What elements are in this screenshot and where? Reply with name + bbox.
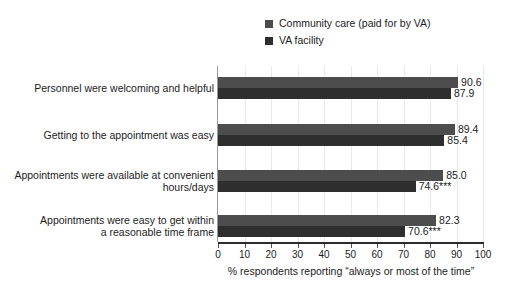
x-tick [298,244,299,248]
bar-value-label: 87.9 [451,88,474,99]
bar [218,88,451,99]
category-label-line: Appointments were available at convenien… [4,169,214,182]
x-tick-label: 70 [398,249,409,260]
legend-label-community-care: Community care (paid for by VA) [279,18,431,29]
legend-swatch-va-facility [265,37,273,45]
category-label-line: a reasonable time frame [4,226,214,239]
x-tick [218,244,219,248]
x-tick-label: 0 [215,249,221,260]
x-tick-label: 90 [451,249,462,260]
category-label: Appointments were easy to get withina re… [4,214,218,239]
category-label: Getting to the appointment was easy [4,129,218,142]
x-tick [351,244,352,248]
bar [218,181,416,192]
x-tick-label: 10 [239,249,250,260]
bar [218,226,405,237]
bar [218,215,436,226]
bar [218,77,458,88]
legend-item-va-facility: VA facility [265,33,490,48]
y-axis-line [217,66,218,242]
x-tick [483,244,484,248]
bar [218,124,455,135]
bar-value-label: 70.6*** [405,226,441,237]
x-tick [271,244,272,248]
x-tick [404,244,405,248]
category-label-line: Getting to the appointment was easy [4,129,214,142]
category-label-line: Personnel were welcoming and helpful [4,82,214,95]
x-tick [430,244,431,248]
category-labels: Personnel were welcoming and helpfulGett… [0,0,218,291]
category-label-line: hours/days [4,181,214,194]
category-label-line: Appointments were easy to get within [4,214,214,227]
bar-value-label: 74.6*** [416,181,452,192]
x-tick-label: 30 [292,249,303,260]
x-tick [245,244,246,248]
x-tick-label: 80 [424,249,435,260]
x-tick-label: 100 [475,249,492,260]
x-axis-title: % respondents reporting “always or most … [218,265,484,277]
x-tick-label: 60 [371,249,382,260]
x-tick-label: 50 [345,249,356,260]
x-tick [324,244,325,248]
x-tick [377,244,378,248]
x-tick-label: 20 [265,249,276,260]
bar-chart: Community care (paid for by VA) VA facil… [0,0,524,291]
gridline [483,66,484,242]
chart-legend: Community care (paid for by VA) VA facil… [265,16,490,50]
x-tick-label: 40 [318,249,329,260]
bar [218,135,444,146]
legend-label-va-facility: VA facility [279,35,324,46]
legend-item-community-care: Community care (paid for by VA) [265,16,490,31]
category-label: Personnel were welcoming and helpful [4,82,218,95]
category-label: Appointments were available at convenien… [4,169,218,194]
bar-value-label: 85.4 [444,135,467,146]
bar [218,170,443,181]
legend-swatch-community-care [265,20,273,28]
plot-area: 90.687.989.485.485.074.6***82.370.6*** [218,66,483,242]
x-tick [457,244,458,248]
